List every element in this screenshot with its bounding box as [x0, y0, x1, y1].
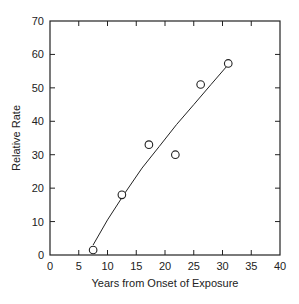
x-tick-label: 20: [159, 260, 171, 272]
data-point-marker: [89, 246, 97, 254]
x-tick-label: 30: [216, 260, 228, 272]
y-tick-label: 40: [32, 115, 44, 127]
data-point-marker: [145, 141, 153, 149]
y-tick-label: 60: [32, 48, 44, 60]
plot-frame: [50, 21, 280, 255]
fitted-curve: [93, 65, 228, 246]
x-tick-label: 0: [47, 260, 53, 272]
x-axis-ticks: 0510152025303540: [47, 21, 286, 272]
x-tick-label: 25: [188, 260, 200, 272]
x-axis-label: Years from Onset of Exposure: [92, 277, 239, 289]
relative-rate-chart: 010203040506070 0510152025303540 Years f…: [0, 0, 299, 304]
data-points: [89, 60, 232, 254]
data-point-marker: [172, 151, 180, 159]
x-tick-label: 40: [274, 260, 286, 272]
x-tick-label: 35: [245, 260, 257, 272]
y-tick-label: 10: [32, 216, 44, 228]
x-tick-label: 15: [130, 260, 142, 272]
data-point-marker: [224, 60, 232, 68]
y-axis-ticks: 010203040506070: [32, 15, 280, 261]
y-axis-label: Relative Rate: [10, 105, 22, 171]
x-tick-label: 10: [101, 260, 113, 272]
x-tick-label: 5: [76, 260, 82, 272]
data-point-marker: [197, 81, 205, 89]
y-tick-label: 70: [32, 15, 44, 27]
y-tick-label: 30: [32, 149, 44, 161]
y-tick-label: 20: [32, 182, 44, 194]
data-point-marker: [118, 191, 126, 199]
y-tick-label: 0: [38, 249, 44, 261]
y-tick-label: 50: [32, 82, 44, 94]
